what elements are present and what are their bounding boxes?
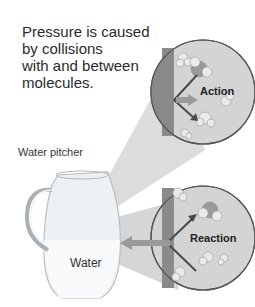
reaction-label: Reaction bbox=[190, 232, 236, 244]
water-label: Water bbox=[70, 256, 102, 270]
water-pitcher-label: Water pitcher bbox=[18, 146, 83, 158]
caption-line: Pressure is caused bbox=[22, 23, 152, 40]
caption-line: molecules. bbox=[22, 74, 152, 91]
caption-line: with and between bbox=[22, 57, 152, 74]
caption-text: Pressure is caused by collisions with an… bbox=[22, 23, 152, 91]
water-pitcher bbox=[27, 171, 120, 298]
action-label: Action bbox=[200, 85, 234, 97]
caption-line: by collisions bbox=[22, 40, 152, 57]
